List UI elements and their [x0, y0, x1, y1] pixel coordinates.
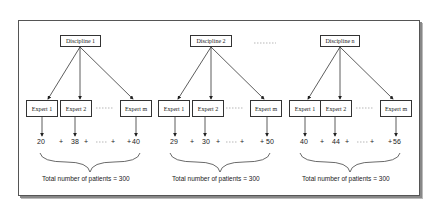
expert-label: Expert 1: [295, 106, 316, 112]
expert-label: Expert m: [385, 106, 407, 112]
expert-box: Expert 2: [320, 100, 352, 117]
plus-operator: +: [190, 138, 194, 145]
patient-count: 38: [71, 138, 79, 145]
patient-count: 30: [202, 138, 210, 145]
patient-count: 20: [37, 138, 45, 145]
plus-operator: +: [111, 138, 115, 145]
expert-label: Expert 1: [164, 106, 185, 112]
expert-box: Expert m: [120, 100, 152, 117]
expert-label: Expert 2: [66, 106, 87, 112]
expert-box: Expert m: [250, 100, 282, 117]
discipline-label: Discipline 1: [66, 38, 95, 44]
expert-label: Expert m: [125, 106, 147, 112]
expert-label: Expert 2: [326, 106, 347, 112]
total-patients-label: Total number of patients = 300: [42, 175, 130, 182]
plus-operator: +: [320, 138, 324, 145]
expert-box: Expert m: [380, 100, 412, 117]
patient-count: 56: [393, 138, 401, 145]
plus-operator: +: [345, 138, 349, 145]
discipline-label: Discipline 2: [196, 38, 225, 44]
expert-label: Expert 2: [198, 106, 219, 112]
plus-operator: +: [84, 138, 88, 145]
patient-count: 29: [170, 138, 178, 145]
expert-label: Expert m: [255, 106, 277, 112]
discipline-n-box: Discipline n: [320, 35, 360, 47]
discipline-1-box: Discipline 1: [60, 35, 101, 47]
expert-box: Expert 2: [192, 100, 224, 117]
patient-count: 44: [332, 138, 340, 145]
plus-operator: +: [260, 138, 264, 145]
plus-operator: +: [216, 138, 220, 145]
plus-operator: +: [59, 138, 63, 145]
expert-label: Expert 1: [32, 106, 53, 112]
diagram-canvas: Discipline 1 Expert 1 Expert 2 Expert m …: [0, 0, 436, 211]
patient-count: 40: [132, 138, 140, 145]
expert-box: Expert 2: [60, 100, 92, 117]
plus-operator: +: [388, 138, 392, 145]
plus-operator: +: [240, 138, 244, 145]
plus-operator: +: [127, 138, 131, 145]
total-patients-label: Total number of patients = 300: [302, 175, 390, 182]
discipline-label: Discipline n: [325, 38, 354, 44]
discipline-2-box: Discipline 2: [190, 35, 232, 47]
patient-count: 40: [300, 138, 308, 145]
expert-box: Expert 1: [26, 100, 58, 117]
expert-box: Expert 1: [289, 100, 321, 117]
patient-count: 50: [266, 138, 274, 145]
total-patients-label: Total number of patients = 300: [172, 175, 260, 182]
plus-operator: +: [370, 138, 374, 145]
expert-box: Expert 1: [158, 100, 190, 117]
